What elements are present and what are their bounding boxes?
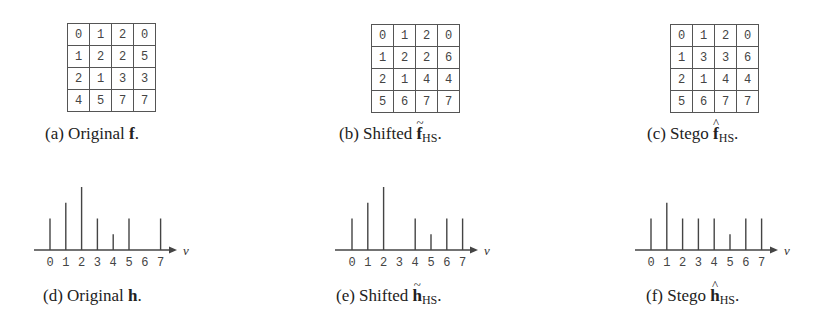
tick-label: 4 (711, 256, 718, 270)
caption-e-prefix: (e) Shifted (336, 286, 412, 305)
histogram-stego-h: 01234567v (0, 0, 815, 329)
caption-f-suffix: . (735, 286, 739, 305)
tick-label: 2 (679, 256, 686, 270)
tilde-accent: ~ (412, 277, 421, 293)
tick-label: 3 (695, 256, 702, 270)
arrow-right-icon (770, 247, 778, 254)
caption-e-suffix: . (437, 286, 441, 305)
caption-e-subscript: HS (422, 293, 437, 307)
caption-f-accented-symbol: ^h (710, 286, 719, 306)
caption-f-subscript: HS (720, 293, 735, 307)
tick-label: 5 (726, 256, 733, 270)
tick-label: 6 (742, 256, 749, 270)
caption-e-accented-symbol: ~h (412, 286, 421, 306)
tick-label: 7 (758, 256, 765, 270)
tick-label: 0 (647, 256, 654, 270)
caption-d: (d) Original h. (43, 286, 142, 306)
caption-f: (f) Stego ^hHS. (646, 286, 739, 308)
caption-f-prefix: (f) Stego (646, 286, 710, 305)
hat-accent: ^ (710, 277, 719, 293)
caption-d-suffix: . (137, 286, 141, 305)
caption-e: (e) Shifted ~hHS. (336, 286, 442, 308)
tick-label: 1 (663, 256, 670, 270)
axis-label-v: v (784, 243, 790, 258)
caption-d-prefix: (d) Original (43, 286, 128, 305)
